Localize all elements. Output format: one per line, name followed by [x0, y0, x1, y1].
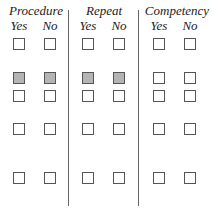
repeat-yes-label: Yes — [76, 18, 100, 34]
checkbox-repeat-yes-row-2[interactable] — [82, 72, 94, 84]
header-procedure: Procedure — [5, 3, 67, 19]
checkbox-competency-yes-row-3[interactable] — [153, 90, 165, 102]
checkbox-procedure-yes-row-5[interactable] — [13, 172, 25, 184]
checkbox-repeat-no-row-4[interactable] — [113, 123, 125, 135]
procedure-no-label: No — [38, 18, 62, 34]
checkbox-repeat-yes-row-1[interactable] — [82, 38, 94, 50]
checkbox-competency-no-row-1[interactable] — [184, 38, 196, 50]
checkbox-competency-yes-row-5[interactable] — [153, 172, 165, 184]
checkbox-repeat-no-row-2[interactable] — [113, 72, 125, 84]
column-divider-1 — [68, 10, 69, 206]
checkbox-repeat-no-row-3[interactable] — [113, 90, 125, 102]
checkbox-procedure-no-row-2[interactable] — [44, 72, 56, 84]
checkbox-procedure-yes-row-1[interactable] — [13, 38, 25, 50]
header-repeat: Repeat — [72, 3, 136, 19]
checkbox-repeat-yes-row-4[interactable] — [82, 123, 94, 135]
header-competency: Competency — [140, 3, 214, 19]
competency-no-label: No — [178, 18, 202, 34]
checkbox-procedure-no-row-3[interactable] — [44, 90, 56, 102]
competency-yes-label: Yes — [147, 18, 171, 34]
checkbox-procedure-no-row-5[interactable] — [44, 172, 56, 184]
checkbox-competency-yes-row-4[interactable] — [153, 123, 165, 135]
checkbox-procedure-yes-row-3[interactable] — [13, 90, 25, 102]
checkbox-competency-no-row-5[interactable] — [184, 172, 196, 184]
checkbox-repeat-yes-row-5[interactable] — [82, 172, 94, 184]
checkbox-competency-no-row-4[interactable] — [184, 123, 196, 135]
checkbox-competency-yes-row-1[interactable] — [153, 38, 165, 50]
checkbox-repeat-no-row-5[interactable] — [113, 172, 125, 184]
checkbox-competency-no-row-3[interactable] — [184, 90, 196, 102]
checkbox-competency-no-row-2[interactable] — [184, 72, 196, 84]
checkbox-procedure-no-row-1[interactable] — [44, 38, 56, 50]
procedure-yes-label: Yes — [7, 18, 31, 34]
checkbox-procedure-no-row-4[interactable] — [44, 123, 56, 135]
checkbox-procedure-yes-row-2[interactable] — [13, 72, 25, 84]
repeat-no-label: No — [107, 18, 131, 34]
column-divider-2 — [138, 10, 139, 206]
checkbox-repeat-yes-row-3[interactable] — [82, 90, 94, 102]
checkbox-procedure-yes-row-4[interactable] — [13, 123, 25, 135]
checkbox-repeat-no-row-1[interactable] — [113, 38, 125, 50]
checkbox-competency-yes-row-2[interactable] — [153, 72, 165, 84]
